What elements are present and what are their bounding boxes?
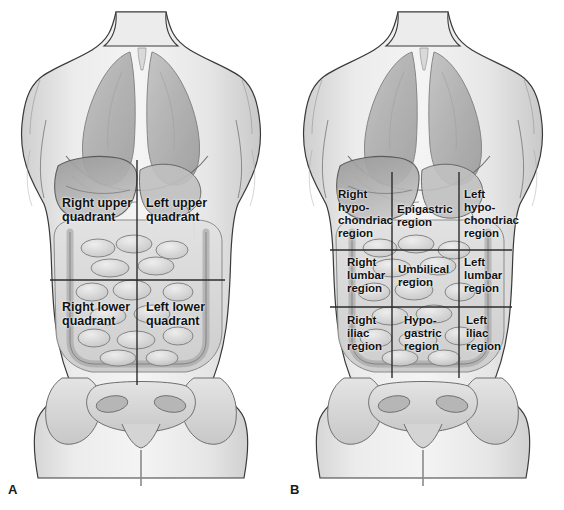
- torso-illustration-a: [0, 0, 282, 510]
- liver: [337, 156, 419, 221]
- panel-letter-a: A: [8, 483, 18, 496]
- panel-a-quadrants: Right upper quadrant Left upper quadrant…: [0, 0, 282, 510]
- torso-illustration-b: [282, 0, 564, 510]
- liver: [55, 156, 137, 221]
- panel-b-regions: Right hypo- chondriac region Epigastric …: [282, 0, 564, 510]
- panel-letter-b: B: [290, 483, 300, 496]
- intestines: [54, 220, 222, 372]
- anatomy-figure: Right upper quadrant Left upper quadrant…: [0, 0, 564, 510]
- intestines: [336, 220, 504, 372]
